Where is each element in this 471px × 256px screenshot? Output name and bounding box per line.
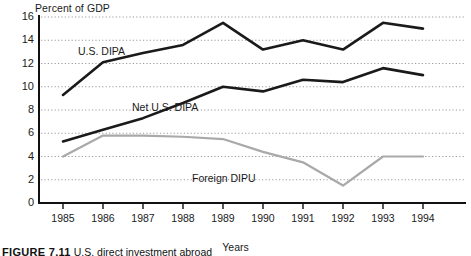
series-label-foreign-dipu: Foreign DIPU [192,172,256,184]
y-tick-label: 14 [8,33,34,45]
series-line-net-u-s-dipa [63,68,423,141]
x-tick-label: 1985 [41,212,85,224]
series-label-net-us-dipa: Net U.S. DIPA [132,101,198,113]
figure-caption-number: FIGURE 7.11 [2,246,71,256]
y-axis-title: Percent of GDP [35,2,110,14]
chart-plot-area: Percent of GDP 1614121086420 19851986198… [0,0,471,232]
line-chart-svg [0,0,471,232]
figure-caption-text: U.S. direct investment abroad [74,246,212,256]
x-tick-label: 1988 [161,212,205,224]
y-tick-label: 4 [8,150,34,162]
x-tick-label: 1993 [361,212,405,224]
y-tick-label: 10 [8,80,34,92]
x-tick-label: 1989 [201,212,245,224]
figure-container: Percent of GDP 1614121086420 19851986198… [0,0,471,256]
y-tick-label: 8 [8,103,34,115]
x-tick-label: 1986 [81,212,125,224]
x-tick-label: 1991 [281,212,325,224]
x-tick-label: 1992 [321,212,365,224]
x-tick-label: 1987 [121,212,165,224]
figure-caption: FIGURE 7.11 U.S. direct investment abroa… [2,246,471,256]
series-line-u-s-dipa [63,23,423,95]
y-tick-label: 0 [8,196,34,208]
gridlines-group [41,17,466,180]
x-tick-label: 1990 [241,212,285,224]
y-tick-label: 12 [8,57,34,69]
series-label-us-dipa: U.S. DIPA [78,45,125,57]
x-tick-label: 1994 [401,212,445,224]
y-tick-label: 6 [8,126,34,138]
y-tick-label: 2 [8,173,34,185]
y-tick-label: 16 [8,10,34,22]
